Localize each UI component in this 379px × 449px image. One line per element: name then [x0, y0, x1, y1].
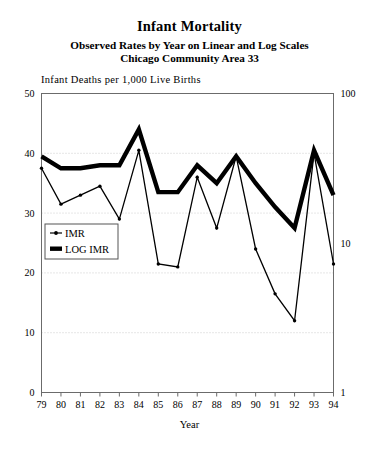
x-tick-label: 79	[37, 399, 47, 410]
left-tick-label: 50	[25, 88, 35, 99]
left-axis-tick-labels: 01020304050	[25, 88, 35, 398]
data-point-marker	[59, 202, 62, 205]
legend-label-imr: IMR	[65, 228, 85, 239]
legend-marker-imr-dot	[54, 231, 58, 235]
data-point-marker	[196, 176, 199, 179]
x-tick-label: 91	[270, 399, 280, 410]
x-tick-label: 94	[329, 399, 339, 410]
x-tick-label: 83	[114, 399, 124, 410]
data-point-marker	[254, 247, 257, 250]
x-tick-label: 93	[309, 399, 319, 410]
x-tick-label: 81	[75, 399, 85, 410]
chart-figure: Infant Mortality Observed Rates by Year …	[0, 0, 379, 449]
data-point-marker	[332, 262, 335, 265]
x-tick-label: 86	[173, 399, 183, 410]
left-tick-label: 20	[25, 267, 35, 278]
data-point-marker	[98, 184, 101, 187]
data-point-marker	[176, 265, 179, 268]
left-tick-label: 40	[25, 148, 35, 159]
x-tick-label: 87	[192, 399, 202, 410]
legend-marker-log-imr-bar	[50, 247, 62, 251]
data-point-marker	[293, 319, 296, 322]
x-axis-ticks	[42, 393, 334, 397]
legend-label-log-imr: LOG IMR	[65, 244, 109, 255]
x-tick-label: 80	[56, 399, 66, 410]
x-tick-label: 89	[231, 399, 241, 410]
left-tick-label: 0	[30, 387, 35, 398]
left-tick-label: 10	[25, 327, 35, 338]
data-point-marker	[273, 292, 276, 295]
chart-legend: IMR LOG IMR	[45, 224, 118, 259]
right-tick-label: 100	[341, 88, 356, 99]
data-point-marker	[234, 155, 237, 158]
right-axis-tick-labels: 110100	[341, 88, 356, 398]
x-tick-label: 88	[212, 399, 222, 410]
data-point-marker	[312, 152, 315, 155]
x-axis-tick-labels: 79808182838485868788899091929394	[37, 399, 339, 410]
x-tick-label: 90	[251, 399, 261, 410]
data-point-marker	[40, 167, 43, 170]
gridlines	[42, 94, 334, 333]
chart-plot-area: 01020304050 110100 798081828384858687888…	[0, 0, 379, 449]
series-line-log-imr	[42, 129, 334, 228]
left-tick-label: 30	[25, 208, 35, 219]
right-tick-label: 1	[341, 387, 346, 398]
data-point-marker	[157, 262, 160, 265]
x-tick-label: 82	[95, 399, 105, 410]
data-point-marker	[137, 149, 140, 152]
data-point-marker	[215, 226, 218, 229]
data-point-marker	[79, 193, 82, 196]
right-tick-label: 10	[341, 238, 351, 249]
x-tick-label: 84	[134, 399, 144, 410]
x-tick-label: 92	[290, 399, 300, 410]
x-tick-label: 85	[153, 399, 163, 410]
data-point-marker	[118, 217, 121, 220]
